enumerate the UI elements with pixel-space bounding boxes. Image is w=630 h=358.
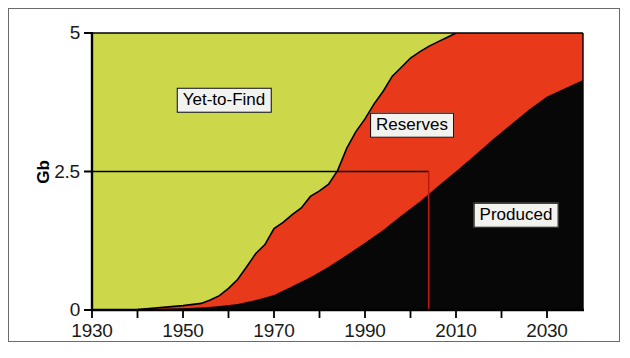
- annotation-produced: Produced: [474, 203, 559, 228]
- annotation-reserves: Reserves: [370, 113, 454, 138]
- x-tick-label-1950: 1950: [162, 320, 203, 342]
- annotation-yet-to-find: Yet-to-Find: [177, 88, 272, 113]
- x-tick-label-1970: 1970: [253, 320, 294, 342]
- y-tick-label-5: 5: [40, 22, 80, 44]
- x-tick-label-1990: 1990: [344, 320, 385, 342]
- y-tick-label-0: 0: [40, 299, 80, 321]
- x-tick-label-1930: 1930: [71, 320, 112, 342]
- x-tick-label-2010: 2010: [435, 320, 476, 342]
- figure-root: Gb 5 2.5 0 1930 1950 1970 1990 2010 2030…: [0, 0, 630, 358]
- x-tick-label-2030: 2030: [526, 320, 567, 342]
- x-axis-ticks: [92, 310, 547, 318]
- y-tick-label-2point5: 2.5: [28, 161, 80, 183]
- stacked-area-chart: [0, 0, 630, 358]
